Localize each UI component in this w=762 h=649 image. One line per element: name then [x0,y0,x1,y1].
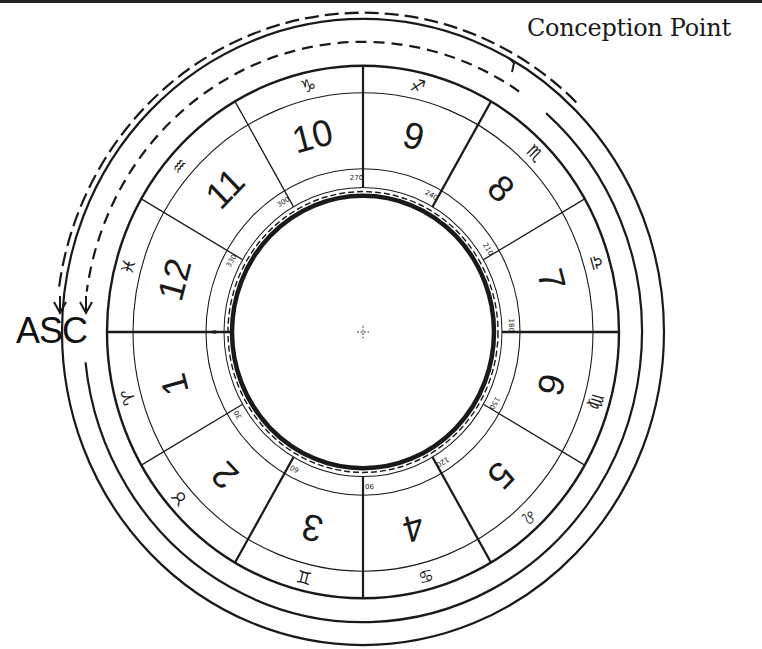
gemini-glyph-icon: ♊ [294,565,314,589]
house-number-9: 9 [399,113,429,159]
house-number-4: 4 [399,505,429,551]
degree-label: 270 [350,174,363,182]
natal-chart-wheel: 0306090120150180210240270300330 12345678… [0,0,762,649]
house-number-8: 8 [480,166,523,210]
capricorn-glyph-icon: ♑ [299,74,318,97]
degree-tick-ring [228,192,498,473]
house-cusp-8 [483,199,584,260]
center-crosshair-icon [357,326,369,338]
degree-label: 180 [507,319,515,332]
house-number-5: 5 [480,453,523,497]
house-number-6: 6 [529,369,573,400]
house-cusp-2 [141,404,242,465]
house-cusp-6 [483,404,584,465]
degree-ring-inner [224,187,502,476]
ascendant-label: ASC [16,311,87,351]
inner-thick-circle [232,196,494,468]
virgo-glyph-icon: ♍ [585,391,608,412]
house-number-12: 12 [150,254,199,305]
libra-glyph-icon: ♎ [585,252,608,273]
house-number-1: 1 [153,369,197,400]
pisces-glyph-icon: ♓ [117,256,140,277]
house-number-7: 7 [529,264,573,295]
conception-point-label: Conception Point [527,14,731,42]
house-number-11: 11 [198,160,253,217]
cancer-glyph-icon: ♋ [416,564,436,588]
aries-glyph-icon: ♈ [117,387,140,408]
degree-ring-outer [206,169,520,496]
house-cusp-9 [433,101,492,206]
house-cusp-3 [235,457,294,562]
house-number-2: 2 [204,453,247,497]
sagittarius-glyph-icon: ♐ [408,74,427,97]
degree-label: 30 [232,409,243,421]
degree-label: 0 [211,330,219,334]
degree-labels: 0306090120150180210240270300330 [211,174,515,490]
house-number-10: 10 [288,111,337,162]
degree-label: 90 [365,482,374,490]
house-cusp-5 [433,457,492,562]
house-number-3: 3 [298,505,328,551]
